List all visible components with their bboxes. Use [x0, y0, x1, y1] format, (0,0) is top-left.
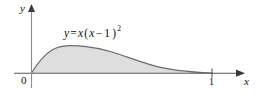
equation-inner-x: x [89, 27, 94, 39]
plot-canvas [0, 0, 258, 98]
equation-exponent: 2 [117, 24, 121, 33]
equation-equals: = [69, 27, 78, 39]
origin-label: 0 [21, 75, 27, 86]
y-axis-arrowhead [28, 4, 35, 12]
shaded-area-under-curve [32, 46, 213, 73]
x-tick-label-one: 1 [209, 77, 214, 87]
y-axis-label: y [20, 3, 25, 14]
curve-equation-label: y=x(x−1)2 [64, 26, 121, 39]
x-axis-label: x [244, 76, 249, 87]
function-graph-figure: y x 0 1 y=x(x−1)2 [0, 0, 258, 98]
